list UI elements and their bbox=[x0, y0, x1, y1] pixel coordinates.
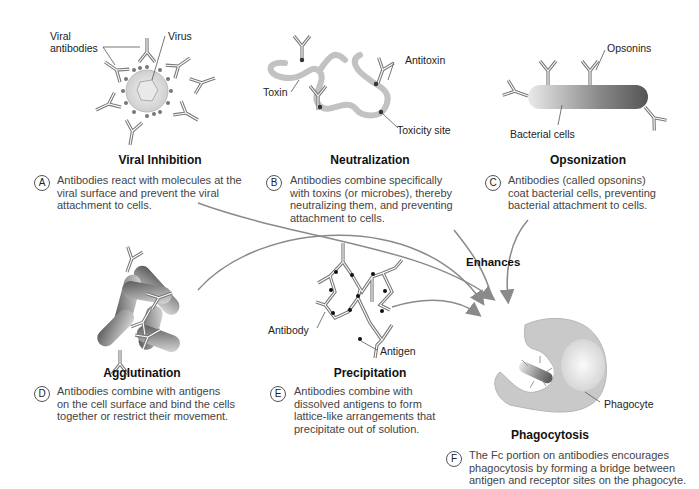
antigen-label: Antigen bbox=[380, 345, 416, 357]
toxicity-site-label: Toxicity site bbox=[397, 124, 451, 136]
precipitation-lattice bbox=[316, 243, 402, 358]
panel-c-description: Antibodies (called opsonins) coat bacter… bbox=[508, 174, 656, 212]
panel-d-title: Agglutination bbox=[92, 366, 192, 380]
desc-line: neutralizing them, and preventing bbox=[290, 199, 453, 212]
desc-line: viral surface and prevent the viral bbox=[57, 187, 242, 200]
desc-line: antigen and receptor sites on the phagoc… bbox=[469, 474, 686, 487]
desc-line: precipitate out of solution. bbox=[294, 423, 435, 436]
panel-b-description: Antibodies combine specifically with tox… bbox=[290, 174, 453, 224]
panel-a-description: Antibodies react with molecules at the v… bbox=[57, 174, 242, 212]
panel-e-title: Precipitation bbox=[320, 366, 420, 380]
panel-d-description: Antibodies combine with antigens on the … bbox=[57, 385, 235, 423]
label-line: antibodies bbox=[50, 42, 98, 54]
label-line: Viral bbox=[50, 30, 98, 42]
desc-line: Antibodies combine specifically bbox=[290, 174, 453, 187]
desc-line: Antibodies combine with antigens bbox=[57, 385, 235, 398]
panel-f-description: The Fc portion on antibodies encourages … bbox=[469, 449, 686, 487]
desc-line: on the cell surface and bind the cells bbox=[57, 398, 235, 411]
panel-c-title: Opsonization bbox=[538, 153, 638, 167]
bacterial-cells-label: Bacterial cells bbox=[510, 128, 575, 140]
toxin-label: Toxin bbox=[263, 86, 288, 98]
antibody-label: Antibody bbox=[268, 324, 309, 336]
panel-c-badge: C bbox=[485, 175, 501, 191]
virus-label: Virus bbox=[168, 30, 192, 42]
desc-line: with toxins (or microbes), thereby bbox=[290, 187, 453, 200]
desc-line: The Fc portion on antibodies encourages bbox=[469, 449, 686, 462]
desc-line: Antibodies combine with bbox=[294, 385, 435, 398]
desc-line: attachment to cells. bbox=[290, 212, 453, 225]
panel-e-description: Antibodies combine with dissolved antige… bbox=[294, 385, 435, 435]
agglutination-illustration bbox=[94, 247, 183, 374]
panel-e-badge: E bbox=[270, 386, 286, 402]
bacteria-illustration bbox=[503, 50, 667, 131]
desc-line: phagocytosis by forming a bridge between bbox=[469, 462, 686, 475]
toxin-illustration bbox=[271, 36, 398, 128]
panel-b-title: Neutralization bbox=[320, 153, 420, 167]
desc-line: lattice-like arrangements that bbox=[294, 410, 435, 423]
desc-line: coat bacterial cells, preventing bbox=[508, 187, 656, 200]
enhances-label: Enhances bbox=[466, 256, 520, 268]
opsonins-label: Opsonins bbox=[607, 42, 651, 54]
antitoxin-label: Antitoxin bbox=[405, 54, 445, 66]
desc-line: together or restrict their movement. bbox=[57, 410, 235, 423]
panel-f-title: Phagocytosis bbox=[500, 428, 600, 442]
panel-a-badge: A bbox=[34, 175, 50, 191]
panel-d-badge: D bbox=[34, 386, 50, 402]
viral-antibodies-label: Viral antibodies bbox=[50, 30, 98, 54]
desc-line: Antibodies (called opsonins) bbox=[508, 174, 656, 187]
panel-a-title: Viral Inhibition bbox=[110, 153, 210, 167]
desc-line: dissolved antigens to form bbox=[294, 398, 435, 411]
desc-line: Antibodies react with molecules at the bbox=[57, 174, 242, 187]
virus-illustration bbox=[93, 36, 218, 146]
desc-line: bacterial attachment to cells. bbox=[508, 199, 656, 212]
phagocyte-illustration bbox=[495, 318, 607, 412]
panel-b-badge: B bbox=[266, 175, 282, 191]
desc-line: attachment to cells. bbox=[57, 199, 242, 212]
panel-f-badge: F bbox=[446, 451, 462, 467]
phagocyte-label: Phagocyte bbox=[604, 398, 654, 410]
